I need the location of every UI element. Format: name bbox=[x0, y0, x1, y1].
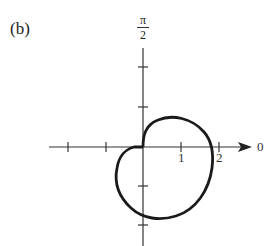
polar-graph bbox=[0, 0, 270, 246]
polar-curve bbox=[116, 117, 213, 218]
